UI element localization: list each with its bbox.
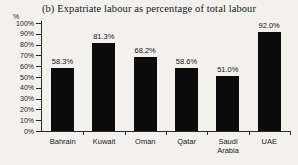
y-axis-tick [36, 34, 41, 35]
bar[interactable] [258, 32, 281, 131]
y-axis-tick [36, 120, 41, 121]
y-axis-tick-label: 60% [0, 63, 34, 70]
bar-group: 92.0% [249, 23, 290, 131]
bar-group: 58.6% [166, 23, 207, 131]
y-axis-tick [36, 88, 41, 89]
chart-title: (b) Expatriate labour as percentage of t… [0, 3, 298, 14]
bar[interactable] [92, 43, 115, 131]
bar-group: 81.3% [83, 23, 124, 131]
y-axis-tick [36, 23, 41, 24]
y-axis-tick-label: 10% [0, 117, 34, 124]
x-axis-tick [166, 131, 167, 135]
y-axis-tick [36, 45, 41, 46]
bar-chart-figure: (b) Expatriate labour as percentage of t… [0, 0, 298, 165]
bar-value-label: 58.6% [163, 58, 210, 66]
y-axis-tick-label: 50% [0, 74, 34, 81]
y-axis-tick-label: 0% [0, 128, 34, 135]
x-axis-tick [207, 131, 208, 135]
bar-value-label: 81.3% [80, 33, 127, 41]
x-axis-tick [83, 131, 84, 135]
x-axis-category-label: UAE [243, 137, 295, 146]
category-label-line: UAE [243, 137, 295, 146]
y-axis-tick-label: 30% [0, 95, 34, 102]
y-axis-tick [36, 131, 41, 132]
y-axis-tick-label: 70% [0, 52, 34, 59]
y-axis-tick [36, 77, 41, 78]
bar-value-label: 58.3% [39, 58, 86, 66]
bar-group: 51.0% [207, 23, 248, 131]
y-axis-tick-label: 90% [0, 30, 34, 37]
bar[interactable] [216, 76, 239, 131]
plot-area: 58.3%81.3%68.2%58.6%51.0%92.0% [42, 23, 290, 131]
bar[interactable] [134, 57, 157, 131]
bar-value-label: 92.0% [246, 22, 293, 30]
bar-value-label: 51.0% [204, 66, 251, 74]
category-label-line: Arabia [202, 146, 254, 155]
y-axis-tick-label: 100% [0, 20, 34, 27]
x-axis-tick [249, 131, 250, 135]
y-axis-tick [36, 55, 41, 56]
bar-group: 68.2% [125, 23, 166, 131]
x-axis-tick [125, 131, 126, 135]
bar[interactable] [51, 68, 74, 131]
bar[interactable] [175, 68, 198, 131]
y-axis-tick [36, 99, 41, 100]
bar-value-label: 68.2% [122, 47, 169, 55]
y-axis-tick-label: 40% [0, 84, 34, 91]
y-axis-tick-label: 80% [0, 41, 34, 48]
y-axis-tick [36, 109, 41, 110]
y-axis-tick-label: 20% [0, 106, 34, 113]
y-axis-tick [36, 66, 41, 67]
bar-group: 58.3% [42, 23, 83, 131]
x-axis-tick [290, 131, 291, 135]
